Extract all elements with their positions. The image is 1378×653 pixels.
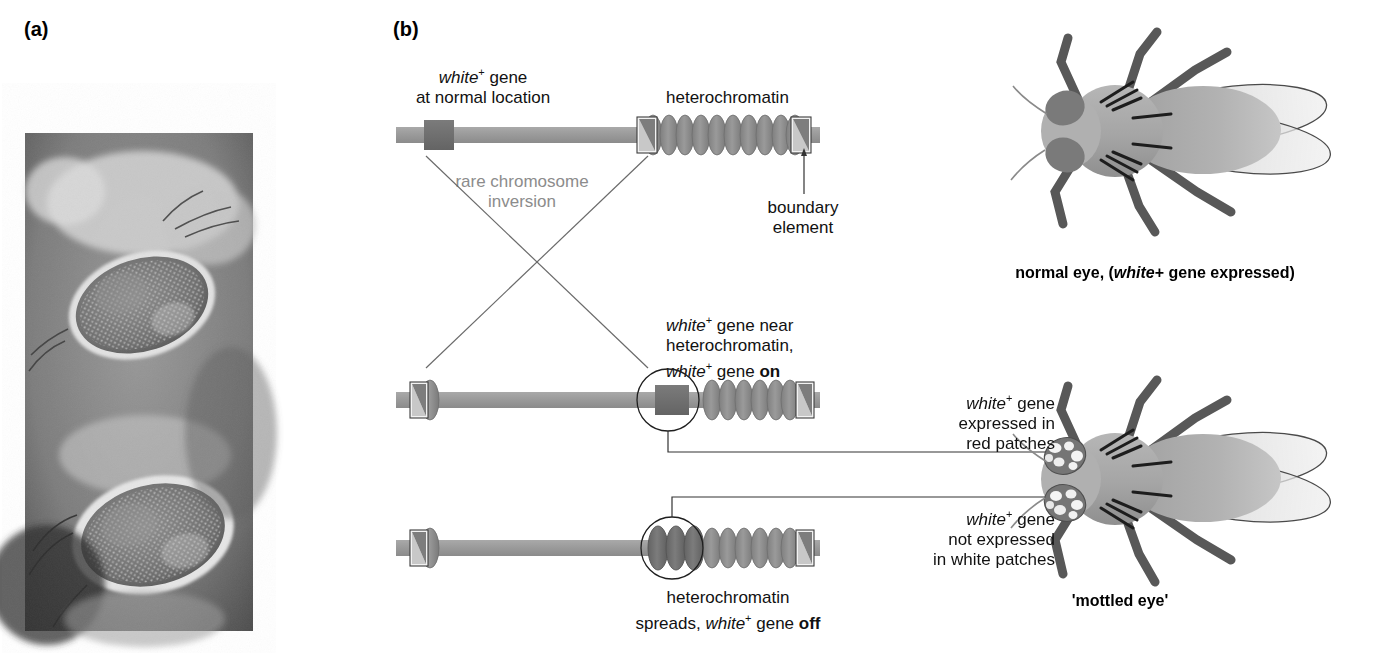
inversion-line1: rare chromosome bbox=[432, 172, 612, 192]
gene-word-3: gene bbox=[712, 361, 759, 380]
boundary-line2: element bbox=[753, 218, 853, 238]
ann-red-italic: white bbox=[966, 394, 1006, 413]
caption-mottled-eye: 'mottled eye' bbox=[955, 592, 1285, 610]
heterochromatin-coils-bottom bbox=[421, 526, 799, 570]
boundary-element-left-top bbox=[637, 117, 657, 153]
spreads-line2a: spreads, bbox=[635, 614, 705, 633]
caption-normal-sup: + bbox=[1155, 264, 1164, 281]
boundary-line1: boundary bbox=[753, 198, 853, 218]
spreads-line1: heterochromatin bbox=[588, 588, 868, 608]
inversion-line2: inversion bbox=[432, 192, 612, 212]
white-gene-box-top bbox=[424, 120, 454, 150]
label-white-gene-near-heterochromatin: white+ gene near heterochromatin, white+… bbox=[666, 310, 794, 381]
label-white-gene-normal-location: white+ gene at normal location bbox=[398, 62, 568, 108]
ann-white-line2: not expressed bbox=[860, 530, 1055, 550]
chromosome-inverted-off bbox=[396, 517, 820, 579]
heterochromatin-coils-middle bbox=[421, 380, 799, 420]
ann-red-gene: gene bbox=[1012, 394, 1055, 413]
ann-red-line2: expressed in bbox=[880, 414, 1055, 434]
caption-normal-italic: white bbox=[1114, 264, 1155, 281]
label-normal-location-line2: at normal location bbox=[398, 88, 568, 108]
white-italic-2: white bbox=[666, 316, 706, 335]
annotation-white-patches: white+ gene not expressed in white patch… bbox=[860, 504, 1055, 570]
label-boundary-element: boundary element bbox=[753, 198, 853, 238]
gene-word-1: gene bbox=[485, 68, 528, 87]
label-heterochromatin: heterochromatin bbox=[666, 88, 789, 108]
panel-a-photograph bbox=[25, 133, 253, 631]
white-gene-box-middle bbox=[655, 385, 689, 415]
state-off: off bbox=[799, 614, 821, 633]
heterochromatin-coils-top bbox=[644, 115, 804, 155]
near-het-line1b: gene near bbox=[712, 316, 793, 335]
white-italic-1: white bbox=[439, 68, 479, 87]
boundary-element-left-bottom bbox=[410, 530, 428, 566]
boundary-element-left-middle bbox=[410, 382, 428, 418]
caption-normal-a: normal eye, ( bbox=[1015, 264, 1114, 281]
near-het-line2: heterochromatin, bbox=[666, 336, 794, 356]
state-on: on bbox=[759, 361, 780, 380]
ann-white-italic: white bbox=[966, 510, 1006, 529]
ann-white-gene: gene bbox=[1012, 510, 1055, 529]
gene-word-4: gene bbox=[752, 614, 799, 633]
chromosome-normal bbox=[396, 115, 820, 155]
label-heterochromatin-spreads: heterochromatin spreads, white+ gene off bbox=[588, 588, 868, 634]
annotation-red-patches: white+ gene expressed in red patches bbox=[880, 388, 1055, 454]
ann-white-line3: in white patches bbox=[860, 550, 1055, 570]
panel-b-letter: (b) bbox=[393, 18, 419, 41]
boundary-element-right-bottom bbox=[796, 530, 814, 566]
panel-a-letter: (a) bbox=[24, 18, 48, 41]
boundary-element-right-top bbox=[791, 117, 811, 153]
leader-boundary-arrow bbox=[801, 148, 807, 156]
white-italic-3: white bbox=[666, 361, 706, 380]
caption-normal-b: gene expressed) bbox=[1164, 264, 1295, 281]
label-rare-chromosome-inversion: rare chromosome inversion bbox=[432, 172, 612, 212]
caption-normal-eye: normal eye, (white+ gene expressed) bbox=[955, 264, 1355, 282]
ann-red-line3: red patches bbox=[880, 434, 1055, 454]
fly-normal-illustration bbox=[955, 10, 1355, 265]
white-italic-4: white bbox=[705, 614, 745, 633]
boundary-element-right-middle bbox=[796, 382, 814, 418]
highlight-circle-gene-off bbox=[641, 517, 703, 579]
